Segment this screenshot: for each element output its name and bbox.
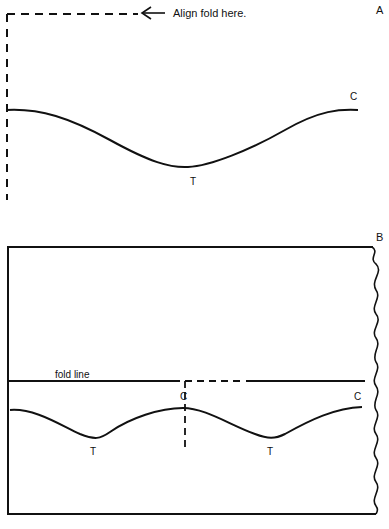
crest-label-center: C	[180, 391, 187, 402]
trough-label: T	[190, 176, 196, 187]
fold-line-label: fold line	[55, 369, 90, 380]
wave-curve-b	[10, 407, 362, 438]
torn-edge	[372, 247, 379, 514]
trough-label-left: T	[90, 446, 96, 457]
wave-curve-a	[6, 110, 358, 167]
panel-b-label: B	[376, 231, 383, 243]
panel-b: B fold line C C T T	[8, 231, 383, 514]
arrow-left-icon	[142, 7, 165, 19]
panel-a-label: A	[376, 4, 384, 16]
align-fold-annotation: Align fold here.	[173, 7, 246, 19]
trough-label-right: T	[267, 446, 273, 457]
panel-a: A Align fold here. C T	[6, 4, 384, 200]
crest-label: C	[350, 91, 357, 102]
diagram-canvas: A Align fold here. C T B fold line C C	[0, 0, 389, 529]
crest-label-right: C	[354, 391, 361, 402]
